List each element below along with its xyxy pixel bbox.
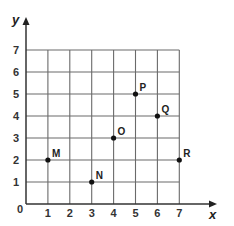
x-tick-label: 4 (111, 207, 118, 219)
x-axis-label: x (208, 207, 217, 222)
x-tick-label: 6 (154, 207, 160, 219)
point-marker-icon (155, 113, 160, 118)
point-marker-icon (89, 179, 94, 184)
y-tick-label: 1 (13, 176, 19, 188)
x-tick-label: 1 (45, 207, 51, 219)
point-label: M (52, 148, 60, 159)
y-axis-arrow-icon (23, 17, 30, 25)
point-marker-icon (133, 91, 138, 96)
coordinate-plane: y x 0 12345671234567 MNOPQR (0, 0, 234, 226)
y-tick-label: 4 (13, 110, 20, 122)
point-label: Q (161, 104, 169, 115)
x-tick-label: 3 (89, 207, 95, 219)
point-marker-icon (111, 135, 116, 140)
y-axis-label: y (11, 12, 20, 27)
point-marker-icon (45, 157, 50, 162)
origin-label: 0 (17, 203, 23, 215)
y-tick-label: 7 (13, 44, 19, 56)
point-marker-icon (177, 157, 182, 162)
point-label: N (96, 170, 103, 181)
point-label: P (140, 82, 147, 93)
x-tick-label: 7 (176, 207, 182, 219)
y-tick-label: 3 (13, 132, 19, 144)
data-points: MNOPQR (45, 82, 191, 185)
y-tick-label: 2 (13, 154, 19, 166)
point-label: O (118, 126, 126, 137)
x-tick-label: 5 (132, 207, 138, 219)
x-tick-label: 2 (67, 207, 73, 219)
y-tick-label: 6 (13, 66, 19, 78)
y-tick-label: 5 (13, 88, 19, 100)
point-label: R (183, 148, 191, 159)
